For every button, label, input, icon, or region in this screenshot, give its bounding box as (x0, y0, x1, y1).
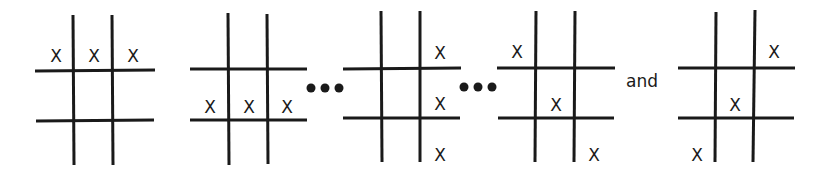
grid-line (73, 15, 74, 165)
ellipsis-separator (460, 83, 497, 92)
x-mark: X (434, 145, 446, 165)
board-col-right: X X X (343, 11, 461, 165)
dot (460, 83, 469, 92)
grid-line (267, 14, 268, 164)
dot (321, 84, 330, 93)
x-mark: X (511, 42, 523, 62)
board-diag-anti: X X X (678, 10, 795, 165)
x-mark: X (281, 97, 293, 117)
winning-lines-diagram: X X X X X X X X X X (0, 0, 828, 171)
x-mark: X (729, 95, 741, 115)
board-row-middle: X X X (190, 13, 307, 165)
x-mark: X (204, 97, 216, 117)
dot (488, 83, 497, 92)
x-mark: X (243, 97, 255, 117)
x-mark: X (691, 145, 703, 165)
x-mark: X (588, 145, 600, 165)
board-row-top: X X X (35, 15, 155, 165)
grid-line (35, 70, 155, 71)
dot (474, 83, 483, 92)
grid-line (381, 11, 382, 162)
grid-line (535, 11, 536, 162)
x-mark: X (127, 46, 139, 66)
x-mark: X (768, 42, 780, 62)
grid-line (753, 10, 755, 162)
dot (307, 84, 316, 93)
x-mark: X (434, 43, 446, 63)
ellipsis-separator (307, 84, 344, 93)
grid-line (112, 15, 113, 165)
dot (335, 84, 344, 93)
grid-line (343, 68, 461, 69)
x-mark: X (88, 46, 100, 66)
x-mark: X (550, 95, 562, 115)
board-diag-main: X X X (497, 11, 615, 165)
grid-line (36, 120, 154, 121)
grid-line (574, 11, 575, 162)
grid-line (715, 12, 716, 162)
x-mark: X (434, 94, 446, 114)
conjunction-label: and (626, 71, 658, 91)
grid-line (228, 13, 229, 165)
x-mark: X (50, 46, 62, 66)
